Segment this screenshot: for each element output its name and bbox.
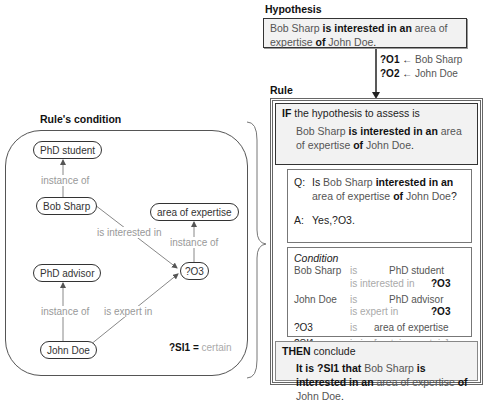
edge-label-is-interested-in: is interested in [97, 227, 161, 238]
edge-label-instance-of: instance of [170, 237, 218, 248]
node-phd-advisor: PhD advisor [33, 264, 101, 282]
edge-label-is-expert-in: is expert in [104, 306, 152, 317]
node-bob-sharp: Bob Sharp [36, 197, 97, 215]
node-o3: ?O3 [180, 262, 209, 280]
edge-label-instance-of: instance of [41, 175, 89, 186]
edge-label-instance-of: instance of [41, 306, 89, 317]
node-phd-student: PhD student [33, 141, 102, 159]
si-assignment: ?SI1 = certain [169, 342, 232, 353]
node-area-of-expertise: area of expertise [150, 203, 239, 221]
node-john-doe: John Doe [40, 341, 97, 359]
